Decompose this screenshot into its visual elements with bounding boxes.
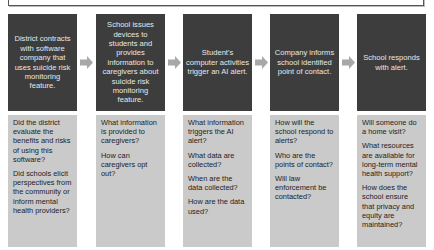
question: How does the school ensure that privacy …: [362, 183, 422, 229]
question: Who are the points of contact?: [275, 151, 335, 169]
question-box: What information triggers the AI alert? …: [183, 115, 252, 247]
right-arrow-icon: [80, 56, 93, 69]
question-box: Will someone do a home visit? What resou…: [357, 115, 426, 247]
right-arrow-icon: [342, 56, 355, 69]
step-label: District contracts with software company…: [11, 34, 74, 90]
question-box: What information is provided to caregive…: [96, 115, 165, 247]
question: When are the data collected?: [188, 174, 248, 192]
step-box: School responds with alert.: [357, 14, 426, 111]
header-frame: [8, 0, 424, 6]
question: What information is provided to caregive…: [101, 118, 161, 146]
step-label: School issues devices to students and pr…: [99, 20, 162, 105]
step-box: Student's computer activities trigger an…: [183, 14, 252, 111]
step-label: Company informs school identified point …: [273, 48, 336, 76]
step-label: School responds with alert.: [360, 53, 423, 72]
flow-column-1: District contracts with software company…: [8, 14, 77, 247]
question: What resources are available for long-te…: [362, 141, 422, 178]
right-arrow-icon: [168, 56, 181, 69]
flow-column-5: School responds with alert. Will someone…: [357, 14, 426, 247]
question: Will law enforcement be contacted?: [275, 174, 335, 202]
flow-column-3: Student's computer activities trigger an…: [183, 14, 252, 247]
question: How can caregivers opt out?: [101, 151, 161, 179]
flow-column-2: School issues devices to students and pr…: [96, 14, 165, 247]
question-box: Did the district evaluate the benefits a…: [8, 115, 77, 247]
question-box: How will the school respond to alerts? W…: [270, 115, 339, 247]
step-box: Company informs school identified point …: [270, 14, 339, 111]
question: How will the school respond to alerts?: [275, 118, 335, 146]
step-box: School issues devices to students and pr…: [96, 14, 165, 111]
question: What information triggers the AI alert?: [188, 118, 248, 146]
question: Did the district evaluate the benefits a…: [13, 118, 73, 164]
question: What data are collected?: [188, 151, 248, 169]
question: Will someone do a home visit?: [362, 118, 422, 136]
flow-column-4: Company informs school identified point …: [270, 14, 339, 247]
right-arrow-icon: [255, 56, 268, 69]
step-box: District contracts with software company…: [8, 14, 77, 111]
question: How are the data used?: [188, 197, 248, 215]
step-label: Student's computer activities trigger an…: [186, 48, 249, 76]
question: Did schools elicit perspectives from the…: [13, 169, 73, 215]
